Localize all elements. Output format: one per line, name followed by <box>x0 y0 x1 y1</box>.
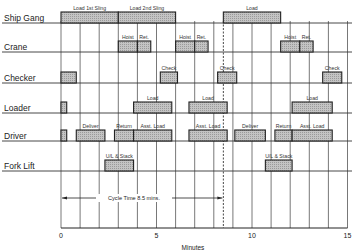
task-label: Deliver <box>242 123 258 129</box>
task-bar <box>292 102 332 113</box>
task-bar <box>76 130 105 141</box>
cycle-annotation: Cycle Time 8.5 mins. <box>62 194 222 202</box>
task-bar <box>105 160 134 171</box>
task-label: Load <box>202 95 214 101</box>
task-bar <box>281 41 300 52</box>
task-label: Load 1st Sling <box>73 5 106 11</box>
x-tick-label: 10 <box>248 232 256 239</box>
x-axis: 051015Minutes <box>59 228 351 251</box>
task-label: Asst. Load <box>300 123 325 129</box>
task-label: Hoist <box>284 34 296 40</box>
task-bar <box>323 72 342 83</box>
task-bar <box>160 72 177 83</box>
task-label: Asst. Load <box>196 123 221 129</box>
task-bar <box>118 41 137 52</box>
task-bar <box>265 160 292 171</box>
row-label: Driver <box>4 131 27 141</box>
task-label: U/L & Stack <box>265 153 293 159</box>
row-label: Ship Gang <box>4 13 44 23</box>
row-lines: Ship GangCraneCheckerLoaderDriverFork Li… <box>2 13 352 171</box>
task-label: Load <box>246 5 258 11</box>
row-label: Crane <box>4 42 27 52</box>
task-bar <box>61 72 76 83</box>
gantt-chart: Ship GangCraneCheckerLoaderDriverFork Li… <box>0 0 356 252</box>
task-bar <box>195 41 208 52</box>
x-axis-title: Minutes <box>182 244 206 251</box>
arrow-left-icon <box>62 196 67 199</box>
task-bar <box>292 130 332 141</box>
task-label: Return <box>116 123 132 129</box>
task-label: Hoist <box>122 34 134 40</box>
task-label: Ret. <box>197 34 207 40</box>
task-bar <box>61 12 118 23</box>
task-bar <box>176 41 195 52</box>
task-bar <box>61 102 67 113</box>
task-bar <box>189 102 227 113</box>
task-label: Check <box>162 65 177 71</box>
task-label: Load 2nd Sling <box>130 5 165 11</box>
task-bars: Load 1st SlingLoad 2nd SlingLoadHoistRet… <box>61 5 342 171</box>
task-label: Load <box>147 95 159 101</box>
x-tick-label: 5 <box>155 232 159 239</box>
task-bar <box>223 12 280 23</box>
row-label: Checker <box>4 73 36 83</box>
task-label: Hoist <box>179 34 191 40</box>
task-bar <box>300 41 313 52</box>
task-bar <box>61 130 67 141</box>
task-label: Load <box>306 95 318 101</box>
task-bar <box>114 130 133 141</box>
task-bar <box>134 102 172 113</box>
task-label: Deliver <box>83 123 99 129</box>
task-label: Asst. Load <box>140 123 165 129</box>
task-bar <box>134 130 172 141</box>
row-label: Fork Lift <box>4 161 35 171</box>
task-label: Check <box>220 65 235 71</box>
task-label: Return <box>276 123 292 129</box>
cycle-time-label: Cycle Time 8.5 mins. <box>108 195 160 201</box>
task-label: U/L & Stack <box>106 153 134 159</box>
task-label: Ret. <box>139 34 149 40</box>
task-bar <box>218 72 237 83</box>
task-bar <box>137 41 150 52</box>
task-label: Check <box>325 65 340 71</box>
task-label: Ret. <box>302 34 312 40</box>
x-tick-label: 15 <box>344 232 352 239</box>
x-tick-label: 0 <box>59 232 63 239</box>
task-bar <box>118 12 175 23</box>
task-bar <box>189 130 227 141</box>
task-bar <box>275 130 292 141</box>
row-label: Loader <box>4 103 31 113</box>
arrow-right-icon <box>217 196 222 199</box>
task-bar <box>235 130 266 141</box>
